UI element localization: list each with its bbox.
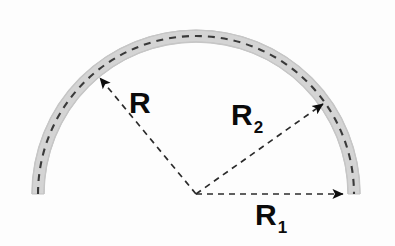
radius-label-R: R <box>129 88 151 118</box>
radius-label-R2-text: R <box>231 98 253 131</box>
radius-label-R-text: R <box>129 86 151 119</box>
radius-label-R1: R1 <box>255 200 286 230</box>
radius-label-R2: R2 <box>231 100 262 130</box>
geometry-diagram <box>0 0 395 246</box>
radius-label-R1-text: R <box>255 198 277 231</box>
radius-label-R1-subscript: 1 <box>278 218 287 237</box>
radius-label-R2-subscript: 2 <box>254 118 263 137</box>
